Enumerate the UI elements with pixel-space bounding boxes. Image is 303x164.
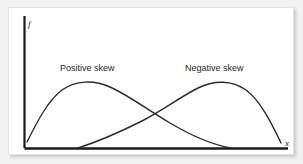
negative-skew-label: Negative skew (185, 63, 244, 73)
y-axis-label: f (28, 19, 32, 29)
positive-skew-label: Positive skew (60, 63, 115, 73)
x-axis-label: x (284, 138, 289, 148)
figure-page: f x Positive skew Negative skew (0, 0, 303, 164)
skewness-chart: f x Positive skew Negative skew (0, 0, 303, 164)
negative-skew-curve (78, 82, 281, 148)
positive-skew-curve (27, 82, 231, 148)
